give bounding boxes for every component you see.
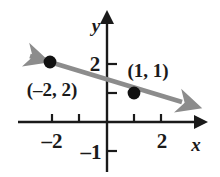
data-point-left <box>44 56 57 69</box>
data-point-right <box>128 87 141 100</box>
point-label-left: (–2, 2) <box>27 80 78 99</box>
y-axis-tick-label-neg1: –1 <box>81 142 102 163</box>
x-axis-tick-label-neg2: –2 <box>42 131 63 152</box>
x-axis-tick-label-pos2: 2 <box>157 131 168 152</box>
x-axis-label: x <box>191 135 201 154</box>
y-axis-label: y <box>92 16 100 35</box>
point-label-right: (1, 1) <box>127 61 168 80</box>
y-axis-tick-label-pos2: 2 <box>90 54 101 75</box>
coordinate-plane-figure: –2 2 2 –1 x y (–2, 2) (1, 1) <box>0 0 220 177</box>
